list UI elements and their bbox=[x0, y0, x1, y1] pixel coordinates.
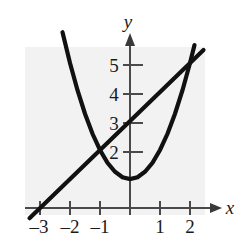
x-tick-label-2: 2 bbox=[185, 216, 195, 237]
graph-figure: y x 5 4 3 2 –3 –2 –1 1 2 bbox=[0, 0, 246, 249]
x-axis-label: x bbox=[225, 197, 235, 218]
x-tick-label-neg2: –2 bbox=[60, 216, 80, 237]
y-tick-label-3: 3 bbox=[109, 113, 119, 134]
y-tick-label-2: 2 bbox=[109, 142, 119, 163]
y-tick-label-5: 5 bbox=[109, 55, 119, 76]
x-tick-label-neg1: –1 bbox=[90, 216, 110, 237]
x-tick-label-neg3: –3 bbox=[29, 216, 49, 237]
y-tick-label-4: 4 bbox=[109, 84, 119, 105]
y-axis-label: y bbox=[122, 11, 133, 32]
x-tick-label-1: 1 bbox=[155, 216, 165, 237]
